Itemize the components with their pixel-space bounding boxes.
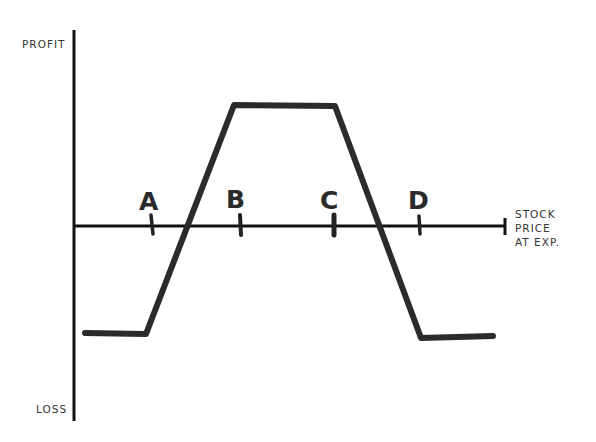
y-label-profit: PROFIT: [22, 38, 65, 50]
tick-label-d: D: [408, 186, 429, 215]
payoff-diagram: PROFIT LOSS STOCK PRICE AT EXP. A B C D: [0, 0, 596, 442]
x-label-line2: PRICE: [515, 222, 551, 234]
tick-label-b: B: [226, 185, 245, 214]
y-label-loss: LOSS: [36, 403, 67, 415]
tick-mark-b: [240, 215, 241, 235]
x-label-line1: STOCK: [515, 208, 556, 220]
tick-mark-d: [419, 216, 420, 234]
payoff-line: [85, 105, 493, 338]
tick-label-c: C: [320, 186, 338, 215]
tick-mark-a: [151, 215, 153, 234]
tick-label-a: A: [139, 187, 159, 216]
x-label-line3: AT EXP.: [515, 236, 560, 248]
